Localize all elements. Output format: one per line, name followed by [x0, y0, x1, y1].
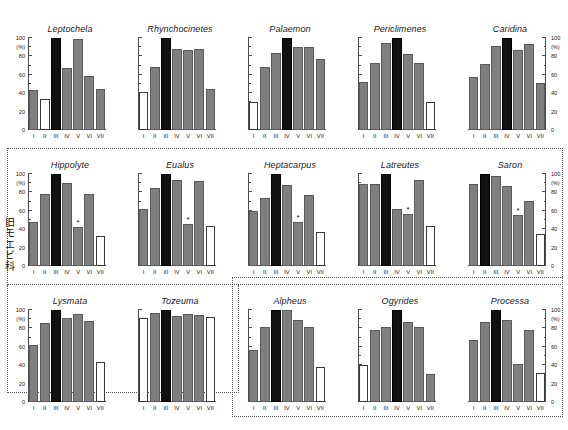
- bar-IV[interactable]: [282, 185, 292, 266]
- bar-IV[interactable]: [62, 318, 72, 402]
- bar-V[interactable]: [513, 364, 523, 402]
- bar-VI[interactable]: [304, 47, 314, 130]
- bar-VII[interactable]: [426, 374, 436, 402]
- bar-VII[interactable]: [206, 89, 216, 130]
- bar-VII[interactable]: [316, 232, 326, 266]
- bar-II[interactable]: [40, 194, 50, 266]
- bar-VI[interactable]: [524, 44, 534, 130]
- bar-VI[interactable]: [414, 180, 424, 266]
- bar-IV[interactable]: [502, 320, 512, 402]
- bar-II[interactable]: [260, 198, 270, 266]
- bar-VII[interactable]: [206, 317, 216, 402]
- bar-IV[interactable]: [502, 38, 512, 130]
- bar-I[interactable]: [139, 318, 149, 402]
- bar-V[interactable]: [73, 314, 83, 402]
- bar-IV[interactable]: [282, 38, 292, 130]
- bar-II[interactable]: [480, 174, 490, 266]
- bar-III[interactable]: [51, 174, 61, 266]
- bar-III[interactable]: [271, 53, 281, 130]
- bar-III[interactable]: [381, 43, 391, 130]
- bar-VII[interactable]: [316, 59, 326, 130]
- bar-II[interactable]: [480, 64, 490, 130]
- bar-I[interactable]: [139, 92, 149, 130]
- bar-III[interactable]: [51, 310, 61, 402]
- bar-V[interactable]: [183, 314, 193, 402]
- bar-VI[interactable]: [84, 194, 94, 266]
- bar-V[interactable]: [513, 50, 523, 130]
- bar-I[interactable]: [139, 209, 149, 266]
- bar-III[interactable]: [491, 46, 501, 130]
- bar-II[interactable]: [260, 327, 270, 402]
- bar-II[interactable]: [370, 184, 380, 266]
- bar-IV[interactable]: [282, 310, 292, 402]
- bar-III[interactable]: [271, 174, 281, 266]
- bar-V[interactable]: [293, 222, 303, 266]
- bar-VI[interactable]: [524, 330, 534, 402]
- bar-I[interactable]: [249, 350, 259, 402]
- bar-III[interactable]: [51, 38, 61, 130]
- bar-II[interactable]: [40, 323, 50, 402]
- bar-VII[interactable]: [426, 102, 436, 130]
- bar-VI[interactable]: [304, 195, 314, 266]
- bar-I[interactable]: [359, 184, 369, 266]
- bar-VI[interactable]: [194, 49, 204, 130]
- bar-III[interactable]: [491, 176, 501, 266]
- bar-II[interactable]: [150, 313, 160, 402]
- bar-IV[interactable]: [62, 183, 72, 266]
- bar-IV[interactable]: [392, 310, 402, 402]
- bar-VII[interactable]: [96, 236, 106, 266]
- bar-I[interactable]: [359, 365, 369, 402]
- bar-VII[interactable]: [426, 226, 436, 266]
- bar-VI[interactable]: [304, 327, 314, 402]
- bar-II[interactable]: [260, 67, 270, 130]
- bar-VII[interactable]: [96, 89, 106, 130]
- bar-IV[interactable]: [392, 38, 402, 130]
- bar-II[interactable]: [150, 188, 160, 266]
- bar-I[interactable]: [469, 184, 479, 266]
- bar-V[interactable]: [513, 215, 523, 266]
- bar-VII[interactable]: [96, 362, 106, 402]
- bar-II[interactable]: [40, 99, 50, 130]
- bar-V[interactable]: [293, 47, 303, 130]
- bar-V[interactable]: [73, 39, 83, 130]
- bar-III[interactable]: [491, 310, 501, 402]
- bar-I[interactable]: [359, 82, 369, 130]
- bar-VI[interactable]: [84, 76, 94, 130]
- bar-VI[interactable]: [194, 181, 204, 266]
- bar-V[interactable]: [403, 214, 413, 266]
- bar-I[interactable]: [29, 222, 39, 266]
- bar-III[interactable]: [381, 174, 391, 266]
- bar-VI[interactable]: [414, 63, 424, 130]
- bar-VII[interactable]: [536, 83, 546, 130]
- bar-V[interactable]: [73, 227, 83, 266]
- bar-IV[interactable]: [172, 316, 182, 402]
- bar-III[interactable]: [161, 310, 171, 402]
- bar-V[interactable]: [183, 224, 193, 266]
- bar-V[interactable]: [403, 54, 413, 130]
- bar-VI[interactable]: [84, 321, 94, 402]
- bar-V[interactable]: [293, 320, 303, 402]
- bar-VI[interactable]: [524, 201, 534, 266]
- bar-V[interactable]: [183, 50, 193, 130]
- bar-IV[interactable]: [62, 68, 72, 130]
- bar-VII[interactable]: [536, 373, 546, 402]
- bar-I[interactable]: [29, 90, 39, 130]
- bar-VII[interactable]: [316, 367, 326, 402]
- bar-III[interactable]: [161, 174, 171, 266]
- bar-I[interactable]: [249, 211, 259, 266]
- bar-I[interactable]: [469, 77, 479, 130]
- bar-III[interactable]: [161, 38, 171, 130]
- bar-III[interactable]: [381, 327, 391, 402]
- bar-IV[interactable]: [392, 209, 402, 266]
- bar-IV[interactable]: [172, 180, 182, 266]
- bar-IV[interactable]: [502, 186, 512, 266]
- bar-III[interactable]: [271, 310, 281, 402]
- bar-II[interactable]: [370, 63, 380, 130]
- bar-II[interactable]: [370, 330, 380, 402]
- bar-I[interactable]: [469, 340, 479, 402]
- bar-I[interactable]: [29, 345, 39, 402]
- bar-V[interactable]: [403, 322, 413, 402]
- bar-II[interactable]: [480, 322, 490, 402]
- bar-II[interactable]: [150, 67, 160, 130]
- bar-VI[interactable]: [194, 315, 204, 402]
